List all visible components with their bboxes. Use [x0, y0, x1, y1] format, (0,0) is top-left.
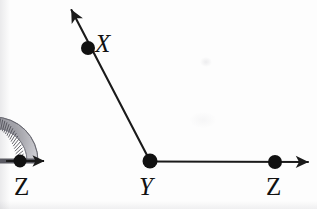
point-label-z-right: Z — [266, 174, 281, 199]
point-z-right-dot — [268, 155, 282, 169]
point-x-dot — [81, 41, 95, 55]
geometry-figure: X Y Z Z — [0, 0, 317, 209]
point-label-z-left: Z — [14, 174, 29, 199]
point-label-x: X — [95, 31, 110, 56]
point-y-dot — [143, 154, 158, 169]
ray-yx — [72, 10, 151, 161]
point-label-y: Y — [139, 174, 153, 199]
point-z-left-dot — [14, 155, 27, 168]
ray-yz — [150, 162, 308, 163]
